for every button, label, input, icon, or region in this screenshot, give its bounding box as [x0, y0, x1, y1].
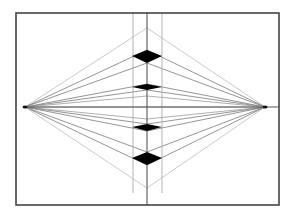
- vp-right-marker: [263, 105, 268, 108]
- perspective-diagram: Two-point perspective construction with …: [0, 0, 293, 212]
- perspective-drawing: Two-point perspective construction with …: [0, 0, 293, 212]
- vp-left-marker: [23, 105, 28, 108]
